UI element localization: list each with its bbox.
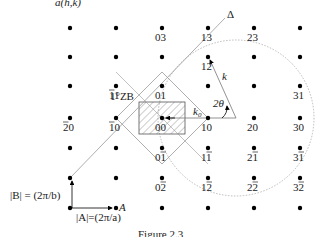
b-vector-label: |B| = (2π/b) bbox=[10, 189, 61, 202]
lattice-point bbox=[206, 84, 210, 88]
figure-caption: Figure 2.3 bbox=[138, 228, 184, 237]
lattice-point bbox=[206, 206, 210, 210]
lattice-point bbox=[114, 55, 118, 59]
lattice-point bbox=[160, 176, 164, 180]
lattice-point bbox=[114, 84, 118, 88]
lattice-point bbox=[206, 176, 210, 180]
lattice-label: 22 bbox=[247, 181, 258, 193]
lattice-point bbox=[68, 26, 72, 30]
lattice-point bbox=[252, 26, 256, 30]
lattice-point bbox=[252, 146, 256, 150]
lattice-point bbox=[206, 26, 210, 30]
lattice-point bbox=[206, 146, 210, 150]
k-label: k bbox=[222, 70, 228, 82]
lattice-point bbox=[114, 176, 118, 180]
lattice-label: 12 bbox=[201, 60, 212, 72]
lattice-label: 23 bbox=[247, 31, 259, 43]
k0-label: k0 bbox=[193, 105, 202, 119]
lattice-point bbox=[114, 146, 118, 150]
lattice-point bbox=[160, 84, 164, 88]
lattice-label: 02 bbox=[155, 181, 166, 193]
lattice-label: 12 bbox=[201, 181, 212, 193]
lattice-point bbox=[298, 116, 302, 120]
lattice-point bbox=[298, 146, 302, 150]
lattice-point bbox=[160, 26, 164, 30]
lattice-label: 30 bbox=[293, 121, 305, 133]
lattice-point bbox=[252, 116, 256, 120]
lattice-point bbox=[114, 26, 118, 30]
lattice-point bbox=[298, 206, 302, 210]
lattice-point bbox=[206, 55, 210, 59]
lattice-label: 31 bbox=[293, 151, 304, 163]
lattice-label: 10 bbox=[201, 121, 213, 133]
lattice-label: 11 bbox=[201, 151, 212, 163]
a-label: A bbox=[118, 201, 126, 213]
reciprocal-lattice-diagram: a(h,k) 031323121101312010001020300111213… bbox=[0, 0, 321, 237]
lattice-point bbox=[160, 146, 164, 150]
lattice-point bbox=[252, 176, 256, 180]
lattice-label: 03 bbox=[155, 31, 167, 43]
lattice-point bbox=[68, 116, 72, 120]
lattice-label: 01 bbox=[155, 151, 166, 163]
lattice-label: 21 bbox=[247, 151, 258, 163]
delta-label: Δ bbox=[227, 8, 234, 20]
lattice-label: 10 bbox=[109, 121, 121, 133]
lattice-label: 13 bbox=[201, 31, 213, 43]
lattice-point bbox=[114, 206, 118, 210]
lattice-point bbox=[68, 206, 72, 210]
lattice-point bbox=[160, 206, 164, 210]
lattice-point bbox=[68, 146, 72, 150]
two-theta-label: 2θ bbox=[213, 97, 225, 109]
lattice-point bbox=[298, 55, 302, 59]
lattice-label: 00 bbox=[155, 121, 167, 133]
lattice-point bbox=[68, 84, 72, 88]
lattice-point bbox=[252, 55, 256, 59]
lattice-point bbox=[114, 116, 118, 120]
lattice-point bbox=[298, 26, 302, 30]
lattice-point bbox=[206, 116, 210, 120]
a-vector-label: |A|=(2π/a) bbox=[76, 211, 121, 224]
lattice-point bbox=[68, 55, 72, 59]
lattice-label: 31 bbox=[293, 89, 304, 101]
zone-label: 1°ZB bbox=[110, 90, 134, 102]
lattice-point bbox=[252, 206, 256, 210]
k-vector bbox=[210, 60, 236, 118]
lattice-label: 20 bbox=[247, 121, 259, 133]
lattice-point bbox=[68, 176, 72, 180]
diagram-title: a(h,k) bbox=[55, 0, 81, 9]
lattice-point bbox=[298, 176, 302, 180]
lattice-label: 32 bbox=[293, 181, 304, 193]
lattice-point bbox=[298, 84, 302, 88]
lattice-label: 20 bbox=[63, 121, 75, 133]
lattice-point bbox=[160, 55, 164, 59]
lattice-label: 01 bbox=[155, 89, 166, 101]
lattice-point bbox=[160, 116, 164, 120]
lattice-point bbox=[252, 84, 256, 88]
